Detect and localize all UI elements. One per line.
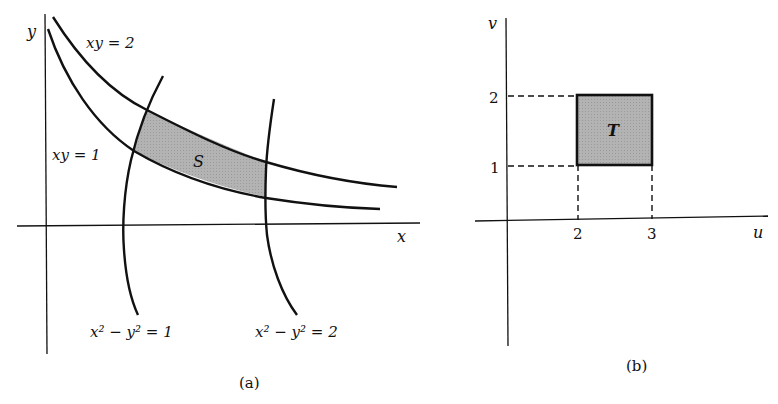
curve-hyperbola-1 [123,76,163,315]
figure-canvas: y x xy = 2 xy = 1 S x² − y² = 1 x² − y² … [0,0,778,404]
v-axis-label: v [488,14,497,33]
label-xy-1: xy = 1 [52,146,101,164]
label-hyperbola-2: x² − y² = 2 [255,323,338,341]
x-axis-label: x [397,227,406,246]
label-hyperbola-1: x² − y² = 1 [90,323,173,341]
u-tick-3: 3 [647,225,657,243]
curve-hyperbola-2 [265,99,297,315]
u-axis-label: u [753,223,763,242]
region-t-label: T [607,121,620,140]
v-tick-2: 2 [489,89,499,107]
v-axis [506,18,508,346]
u-tick-2: 2 [573,225,583,243]
y-axis-label: y [26,22,37,41]
label-xy-2: xy = 2 [86,34,135,52]
caption-a: (a) [239,374,260,392]
caption-b: (b) [626,357,647,375]
region-s-label: S [193,152,204,171]
v-tick-1: 1 [490,159,500,177]
x-axis [17,223,420,226]
u-axis [475,216,768,221]
panel-b: v u 2 1 2 3 T (b) [475,14,768,375]
y-axis [45,14,47,354]
panel-a: y x xy = 2 xy = 1 S x² − y² = 1 x² − y² … [17,14,420,392]
